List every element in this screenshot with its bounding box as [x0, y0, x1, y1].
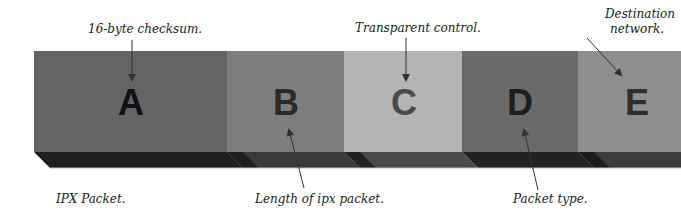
label-packet-type: Packet type.	[513, 192, 588, 207]
label-ipx-packet: IPX Packet.	[56, 192, 126, 207]
label-destination-line2: network.	[589, 22, 681, 37]
segment-c-letter: C	[391, 82, 417, 123]
segment-d-letter: D	[507, 82, 533, 123]
label-destination-line1: Destination	[595, 7, 681, 22]
label-transparent-control: Transparent control.	[355, 21, 481, 36]
label-destination-network: Destination network.	[595, 7, 681, 37]
segment-e-letter: E	[625, 82, 649, 123]
segment-b-letter: B	[273, 82, 299, 123]
label-length: Length of ipx packet.	[255, 192, 384, 207]
label-checksum: 16-byte checksum.	[88, 22, 202, 37]
segment-a-base	[34, 152, 243, 168]
segment-a-letter: A	[118, 82, 144, 123]
segment-d-base	[462, 152, 594, 168]
ipx-packet-diagram: A B C D E 16-byte checksum. Transparent …	[0, 0, 681, 218]
